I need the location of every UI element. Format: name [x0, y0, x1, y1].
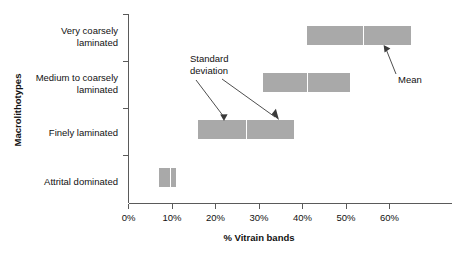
x-tick-label-50: 50% — [336, 212, 356, 223]
cat-label-finely-laminated: Finely laminated — [49, 127, 118, 138]
cat-label-very-coarsely-laminated-l1: Very coarsely — [61, 25, 118, 36]
chart-figure: Macrolithotypes Very coarsely laminated … — [0, 0, 454, 255]
x-tick-label-30: 30% — [249, 212, 269, 223]
standard-deviation-label-l2: deviation — [190, 65, 228, 76]
x-axis: 0% 10% 20% 30% 40% 50% 60% — [122, 204, 452, 224]
x-tick-label-60: 60% — [380, 212, 400, 223]
standard-deviation-arrowhead-right — [272, 109, 279, 120]
bar-very-coarsely-laminated — [307, 26, 411, 45]
cat-label-medium-to-coarsely-laminated-l1: Medium to coarsely — [36, 72, 119, 83]
data-bars — [159, 26, 411, 187]
cat-label-medium-to-coarsely-laminated-l2: laminated — [77, 84, 118, 95]
chart-svg: Macrolithotypes Very coarsely laminated … — [0, 0, 454, 255]
standard-deviation-label-l1: Standard — [190, 53, 229, 64]
annotation-mean: Mean — [384, 45, 422, 85]
mean-arrow — [386, 49, 396, 74]
y-axis-category-labels: Very coarsely laminated Medium to coarse… — [36, 25, 119, 187]
standard-deviation-arrow-left — [196, 80, 224, 117]
x-axis-title: % Vitrain bands — [223, 232, 294, 243]
x-tick-label-10: 10% — [162, 212, 182, 223]
mean-label: Mean — [398, 74, 422, 85]
x-tick-label-40: 40% — [293, 212, 313, 223]
y-axis-title: Macrolithotypes — [12, 74, 23, 147]
cat-label-attrital-dominated: Attrital dominated — [44, 176, 118, 187]
cat-label-very-coarsely-laminated-l2: laminated — [77, 37, 118, 48]
x-tick-label-20: 20% — [206, 212, 226, 223]
standard-deviation-arrowhead-left — [220, 114, 227, 121]
x-tick-label-0: 0% — [122, 212, 136, 223]
y-axis — [123, 14, 129, 203]
bar-attrital-dominated — [159, 168, 176, 187]
